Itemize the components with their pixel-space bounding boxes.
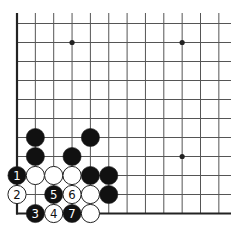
- black-stone: 1: [8, 166, 26, 184]
- move-number: 1: [13, 168, 20, 183]
- white-stone: 2: [8, 185, 26, 203]
- stone-disc-icon: [81, 166, 99, 184]
- star-point-icon: [180, 40, 185, 45]
- black-stone: [81, 166, 99, 184]
- white-stone: [81, 204, 99, 222]
- white-stone: 6: [63, 185, 81, 203]
- stone-disc-icon: [26, 166, 44, 184]
- stone-disc-icon: [100, 185, 118, 203]
- black-stone: 3: [26, 204, 44, 222]
- star-point-icon: [69, 40, 74, 45]
- black-stone: 5: [45, 185, 63, 203]
- stones: 1256347: [8, 128, 118, 222]
- stone-disc-icon: [81, 128, 99, 146]
- star-point-icon: [180, 154, 185, 159]
- stone-disc-icon: [81, 185, 99, 203]
- move-number: 7: [68, 206, 75, 221]
- stone-disc-icon: [100, 166, 118, 184]
- white-stone: [26, 166, 44, 184]
- white-stone: [81, 185, 99, 203]
- white-stone: [45, 166, 63, 184]
- board-edges: [16, 13, 231, 215]
- stone-disc-icon: [26, 128, 44, 146]
- white-stone: [63, 166, 81, 184]
- move-number: 6: [68, 187, 75, 202]
- black-stone: [100, 166, 118, 184]
- move-number: 3: [32, 206, 39, 221]
- black-stone: [26, 147, 44, 165]
- stone-disc-icon: [26, 147, 44, 165]
- black-stone: [81, 128, 99, 146]
- black-stone: 7: [63, 204, 81, 222]
- stone-disc-icon: [45, 166, 63, 184]
- move-number: 5: [50, 187, 57, 202]
- black-stone: [100, 185, 118, 203]
- stone-disc-icon: [63, 147, 81, 165]
- go-board: 1256347: [0, 0, 238, 232]
- black-stone: [63, 147, 81, 165]
- stone-disc-icon: [63, 166, 81, 184]
- move-number: 2: [13, 187, 20, 202]
- black-stone: [26, 128, 44, 146]
- white-stone: 4: [45, 204, 63, 222]
- stone-disc-icon: [81, 204, 99, 222]
- move-number: 4: [50, 206, 57, 221]
